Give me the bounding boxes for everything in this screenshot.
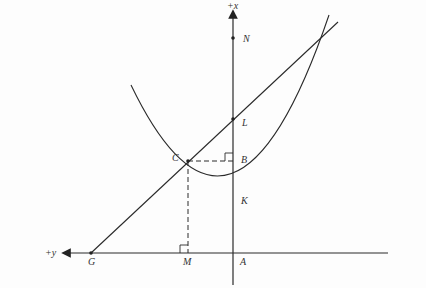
- label-n: N: [242, 33, 251, 44]
- right-angle-b: [225, 153, 233, 161]
- point-c: [186, 159, 190, 163]
- point-l: [231, 117, 235, 121]
- label-k: K: [240, 195, 249, 206]
- line-g-l: [91, 22, 338, 253]
- label-m: M: [182, 256, 192, 267]
- label-b: B: [241, 154, 247, 165]
- geometry-figure: +x +y N L B C K G M A: [0, 0, 426, 288]
- label-plus-x: +x: [227, 0, 239, 11]
- label-a: A: [239, 256, 247, 267]
- label-l: L: [241, 117, 248, 128]
- diagram-canvas: +x +y N L B C K G M A: [0, 0, 426, 288]
- parabola: [131, 15, 329, 176]
- right-angle-m: [180, 245, 188, 253]
- point-n: [231, 36, 235, 40]
- label-g: G: [88, 256, 95, 267]
- label-plus-y: +y: [45, 247, 57, 258]
- label-c: C: [172, 152, 179, 163]
- point-g: [89, 251, 93, 255]
